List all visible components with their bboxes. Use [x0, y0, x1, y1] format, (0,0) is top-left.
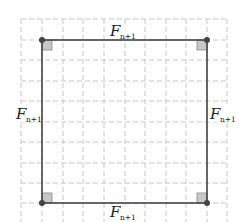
- square-diagram: F n+1 F n+1 F n+1 F n+1: [0, 0, 244, 222]
- vertex-bottom-right: [204, 200, 210, 206]
- vertex-top-right: [204, 37, 210, 43]
- svg-text:n+1: n+1: [120, 213, 136, 222]
- label-left: F n+1: [14, 105, 42, 124]
- label-right: F n+1: [209, 105, 242, 124]
- svg-text:n+1: n+1: [26, 115, 42, 124]
- svg-text:n+1: n+1: [120, 32, 136, 41]
- svg-text:n+1: n+1: [220, 115, 236, 124]
- vertex-top-left: [39, 37, 45, 43]
- label-top: F n+1: [108, 22, 142, 41]
- vertex-bottom-left: [39, 200, 45, 206]
